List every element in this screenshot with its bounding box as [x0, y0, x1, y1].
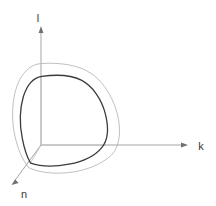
axes-group	[12, 26, 189, 185]
axis-label-n: n	[21, 188, 27, 200]
interior-depth-segment	[31, 145, 42, 163]
interior-lines-group	[31, 76, 107, 163]
figure-container: l k n	[0, 0, 216, 206]
outer-contour-curve	[13, 63, 120, 173]
depth-axis-line	[15, 145, 42, 181]
axis-label-l: l	[37, 12, 39, 24]
horizontal-axis-arrowhead	[181, 143, 188, 148]
vertical-axis-arrowhead	[39, 26, 44, 33]
3d-axes-contour-plot: l k n	[0, 0, 216, 206]
depth-axis-arrowhead	[12, 179, 19, 185]
inner-contour-curve	[20, 75, 107, 166]
axis-label-k: k	[198, 140, 204, 152]
